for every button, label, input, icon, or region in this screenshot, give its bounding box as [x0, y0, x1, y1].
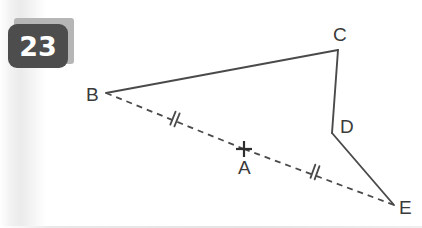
segment-cd — [332, 50, 338, 133]
vertex-label-a: A — [238, 158, 251, 177]
vertex-label-d: D — [340, 117, 354, 136]
vertex-label-b: B — [86, 85, 99, 104]
segment-de — [332, 133, 394, 205]
cross-marker-a — [236, 141, 252, 157]
vertex-label-c: C — [333, 25, 347, 44]
segment-ba — [106, 93, 244, 149]
segment-ae — [244, 149, 394, 205]
geometry-figure — [0, 0, 422, 228]
congruence-tick-ba — [170, 112, 179, 127]
segment-bc — [106, 50, 338, 93]
vertex-label-e: E — [399, 198, 412, 217]
diagram-page: 23 B C D E A — [0, 0, 422, 228]
